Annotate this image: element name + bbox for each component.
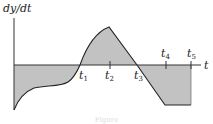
tick-label-t2: t2: [105, 70, 114, 83]
tick-label-t3: t3: [134, 70, 143, 83]
shaded-region: [14, 27, 191, 110]
x-axis-label: t: [204, 60, 208, 71]
tick-label-t5: t5: [187, 48, 196, 61]
tick-label-t4: t4: [161, 48, 170, 61]
dy-dt-graph: [0, 0, 213, 124]
tick-label-t1: t1: [79, 70, 88, 83]
figure-caption: Figure: [0, 116, 213, 124]
y-axis-label: dy/dt: [3, 3, 31, 14]
